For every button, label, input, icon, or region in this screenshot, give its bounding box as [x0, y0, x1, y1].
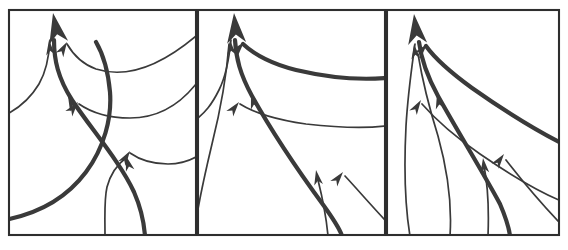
figure-root [0, 0, 568, 250]
streamline-figure [0, 0, 568, 250]
figure-background [0, 0, 568, 250]
